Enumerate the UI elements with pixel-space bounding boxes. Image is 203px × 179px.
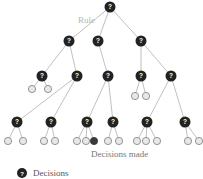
decision-tree-diagram: ??????????????? Rule Decisions made ? De… <box>0 0 203 179</box>
tree-edge <box>141 41 171 76</box>
outcome-leaf <box>51 137 58 144</box>
decision-node: ? <box>108 117 119 128</box>
outcome-leaf <box>131 92 138 99</box>
tree-edge <box>17 76 77 122</box>
decision-node: ? <box>105 2 116 13</box>
legend-glyph: ? <box>20 171 24 177</box>
tree-edge <box>147 76 171 122</box>
outcome-leaf <box>4 137 11 144</box>
tree-edge <box>42 41 69 76</box>
tree-decision-nodes: ??????????????? <box>12 2 191 128</box>
tree-edge <box>171 76 185 122</box>
outcome-leaf <box>40 137 47 144</box>
node-glyph: ? <box>67 37 71 44</box>
node-glyph: ? <box>85 118 89 125</box>
node-glyph: ? <box>145 118 149 125</box>
node-glyph: ? <box>75 72 79 79</box>
outcome-leaf <box>184 137 191 144</box>
decision-node: ? <box>72 71 83 82</box>
tree-edge <box>110 7 141 41</box>
node-glyph: ? <box>183 118 187 125</box>
decision-node: ? <box>46 117 57 128</box>
decision-node: ? <box>136 36 147 47</box>
decision-node: ? <box>166 71 177 82</box>
decision-node: ? <box>142 117 153 128</box>
outcome-leaf <box>115 137 122 144</box>
node-glyph: ? <box>169 72 173 79</box>
outcome-leaf <box>195 137 202 144</box>
decisions-made-label: Decisions made <box>91 149 148 159</box>
outcome-leaf <box>28 85 35 92</box>
rule-label: Rule <box>78 15 95 25</box>
decision-node: ? <box>103 71 114 82</box>
outcome-leaf <box>153 137 160 144</box>
node-glyph: ? <box>108 3 112 10</box>
outcome-leaf <box>142 137 149 144</box>
node-glyph: ? <box>15 118 19 125</box>
outcome-leaf <box>133 137 140 144</box>
tree-leaves <box>4 85 202 144</box>
outcome-leaf <box>142 92 149 99</box>
node-glyph: ? <box>96 37 100 44</box>
node-glyph: ? <box>139 37 143 44</box>
outcome-leaf <box>19 137 26 144</box>
decision-node: ? <box>136 71 147 82</box>
outcome-leaf <box>82 137 89 144</box>
node-glyph: ? <box>49 118 53 125</box>
chosen-outcome-leaf <box>90 137 97 144</box>
outcome-leaf <box>104 137 111 144</box>
node-glyph: ? <box>111 118 115 125</box>
legend: ? Decisions <box>17 168 69 178</box>
decision-node: ? <box>64 36 75 47</box>
legend-label: Decisions <box>33 168 69 178</box>
decision-node: ? <box>12 117 23 128</box>
outcome-leaf <box>73 137 80 144</box>
decision-node: ? <box>93 36 104 47</box>
decision-node: ? <box>82 117 93 128</box>
tree-edge <box>87 76 108 122</box>
node-glyph: ? <box>40 72 44 79</box>
decision-node: ? <box>180 117 191 128</box>
outcome-leaf <box>44 85 51 92</box>
tree-edge <box>108 76 113 122</box>
node-glyph: ? <box>139 72 143 79</box>
tree-edge <box>51 76 77 122</box>
decision-node: ? <box>37 71 48 82</box>
node-glyph: ? <box>106 72 110 79</box>
